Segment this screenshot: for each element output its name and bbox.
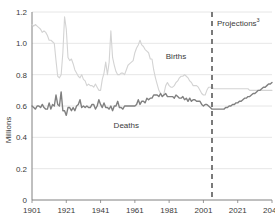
chart-canvas: 19011921194119611981200120212041 00.20.4… xyxy=(0,0,275,222)
series-label-deaths: Deaths xyxy=(114,121,139,130)
x-axis-tick-label: 2001 xyxy=(195,206,213,215)
births-deaths-line-chart: 19011921194119611981200120212041 00.20.4… xyxy=(0,0,275,222)
x-axis-tick-label: 1981 xyxy=(160,206,178,215)
x-axis-tick-label: 1921 xyxy=(57,206,75,215)
projections-label: Projections xyxy=(217,19,257,28)
x-axis-tick-label: 1901 xyxy=(23,206,41,215)
projections-superscript: 3 xyxy=(257,17,260,23)
x-axis-tick-label: 1941 xyxy=(92,206,110,215)
series-label-births: Births xyxy=(166,52,186,61)
x-axis-tick-label: 2021 xyxy=(229,206,247,215)
chart-background xyxy=(0,0,275,222)
y-axis-tick-label: 0 xyxy=(23,196,28,205)
y-axis-tick-label: 0.6 xyxy=(16,102,28,111)
x-axis-tick-label: 1961 xyxy=(126,206,144,215)
y-axis-tick-label: 1.2 xyxy=(16,8,28,17)
x-axis-tick-label: 2041 xyxy=(263,206,275,215)
y-axis-title: Millions xyxy=(4,117,13,144)
y-axis-tick-label: 0.2 xyxy=(16,165,28,174)
y-axis-tick-label: 1.0 xyxy=(16,39,28,48)
y-axis-tick-label: 0.8 xyxy=(16,71,28,80)
y-axis-tick-label: 0.4 xyxy=(16,133,28,142)
